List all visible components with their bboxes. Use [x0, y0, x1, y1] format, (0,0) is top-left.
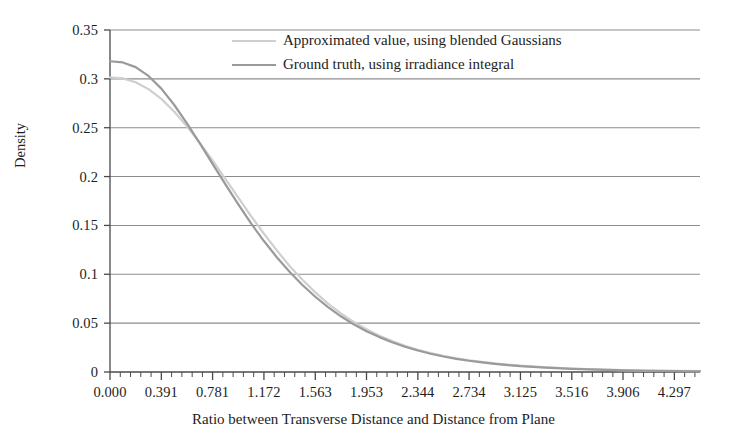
x-tick-label: 0.391: [145, 384, 178, 401]
x-tick-label: 2.344: [401, 384, 434, 401]
x-tick-label: 3.516: [555, 384, 588, 401]
series-line-0: [110, 77, 700, 371]
x-axis-title: Ratio between Transverse Distance and Di…: [0, 411, 747, 428]
y-tick-label: 0.25: [30, 119, 98, 136]
chart-figure: 00.050.10.150.20.250.30.35 0.0000.3910.7…: [0, 0, 747, 444]
legend-swatch-approximated: [232, 40, 276, 42]
x-tick-label: 1.953: [350, 384, 383, 401]
legend-item: Ground truth, using irradiance integral: [232, 54, 562, 75]
data-series: [110, 61, 700, 371]
x-tick-label: 1.563: [299, 384, 332, 401]
series-line-1: [110, 61, 700, 371]
x-tick-label: 2.734: [453, 384, 486, 401]
y-tick-label: 0.15: [30, 217, 98, 234]
legend-swatch-ground-truth: [232, 64, 276, 66]
legend-label-ground-truth: Ground truth, using irradiance integral: [283, 57, 514, 72]
y-tick-label: 0: [30, 364, 98, 381]
y-tick-label: 0.35: [30, 22, 98, 39]
legend-item: Approximated value, using blended Gaussi…: [232, 30, 562, 51]
y-tick-label: 0.05: [30, 315, 98, 332]
y-tick-label: 0.1: [30, 266, 98, 283]
x-tick-label: 4.297: [658, 384, 691, 401]
x-minor-ticks: [120, 372, 695, 377]
chart-legend: Approximated value, using blended Gaussi…: [232, 28, 562, 77]
x-major-ticks: [110, 372, 674, 380]
y-tick-label: 0.3: [30, 70, 98, 87]
x-tick-label: 0.000: [93, 384, 126, 401]
legend-label-approximated: Approximated value, using blended Gaussi…: [283, 33, 562, 48]
x-tick-label: 3.906: [606, 384, 639, 401]
x-tick-label: 0.781: [196, 384, 229, 401]
y-tick-label: 0.2: [30, 168, 98, 185]
x-tick-label: 1.172: [247, 384, 280, 401]
x-tick-label: 3.125: [504, 384, 537, 401]
y-major-ticks: [104, 30, 110, 372]
y-axis-title: Density: [12, 123, 29, 168]
